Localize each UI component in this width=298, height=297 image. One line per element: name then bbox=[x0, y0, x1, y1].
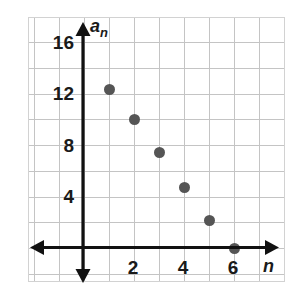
gridline-vertical bbox=[34, 18, 35, 281]
data-point bbox=[129, 114, 140, 125]
gridline-horizontal bbox=[29, 248, 284, 249]
gridline-vertical bbox=[184, 18, 185, 281]
gridline-vertical bbox=[209, 18, 210, 281]
gridline-horizontal bbox=[29, 274, 284, 275]
gridline-horizontal bbox=[29, 222, 284, 223]
gridline-vertical bbox=[109, 18, 110, 281]
x-tick-label-2: 2 bbox=[128, 258, 139, 277]
gridline-horizontal bbox=[29, 17, 284, 18]
gridline-vertical bbox=[259, 18, 260, 281]
x-tick-label-4: 4 bbox=[178, 258, 189, 277]
x-tick-label-6: 6 bbox=[228, 258, 239, 277]
y-tick-label-16: 16 bbox=[38, 33, 74, 52]
gridline-vertical bbox=[284, 18, 285, 281]
y-axis-label: an bbox=[90, 16, 108, 40]
data-point bbox=[154, 147, 165, 158]
scatter-plot-figure: 16 12 8 4 2 4 6 an n bbox=[0, 0, 298, 297]
data-point bbox=[229, 243, 240, 254]
gridline-vertical bbox=[134, 18, 135, 281]
gridline-vertical bbox=[234, 18, 235, 281]
y-tick-label-8: 8 bbox=[38, 136, 74, 155]
data-point bbox=[204, 215, 215, 226]
data-point bbox=[179, 182, 190, 193]
gridline-horizontal bbox=[29, 171, 284, 172]
data-point bbox=[104, 84, 115, 95]
y-tick-label-12: 12 bbox=[38, 84, 74, 103]
y-tick-label-4: 4 bbox=[38, 187, 74, 206]
y-axis-label-base: a bbox=[90, 16, 100, 36]
gridline-vertical bbox=[84, 18, 85, 281]
gridline-horizontal bbox=[29, 68, 284, 69]
gridline-horizontal bbox=[29, 119, 284, 120]
x-axis-label: n bbox=[263, 256, 274, 277]
y-axis-label-subscript: n bbox=[100, 25, 108, 40]
